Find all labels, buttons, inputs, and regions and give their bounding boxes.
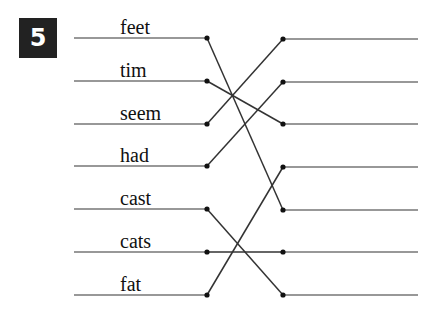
left-dot-tim: [204, 78, 209, 83]
right-dot-6: [280, 249, 285, 254]
right-dot-7: [280, 292, 285, 297]
left-dot-fat: [204, 292, 209, 297]
connector-seem-to-row-1: [207, 39, 283, 124]
left-dot-feet: [204, 35, 209, 40]
left-dot-cast: [204, 206, 209, 211]
connector-had-to-row-2: [207, 82, 283, 166]
left-dot-seem: [204, 121, 209, 126]
connector-tim-to-row-3: [207, 81, 283, 124]
right-dot-4: [280, 164, 285, 169]
right-dot-5: [280, 207, 285, 212]
right-dot-2: [280, 79, 285, 84]
connector-fat-to-row-4: [207, 167, 283, 295]
left-dot-cats: [204, 249, 209, 254]
right-dot-1: [280, 36, 285, 41]
right-dot-3: [280, 121, 285, 126]
left-dot-had: [204, 163, 209, 168]
matching-lines-diagram: [0, 0, 439, 310]
